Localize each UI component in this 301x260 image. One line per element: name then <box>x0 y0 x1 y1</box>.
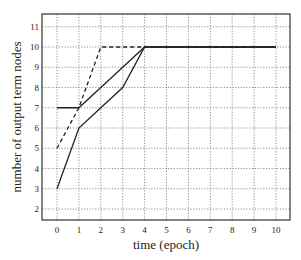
y-tick-label: 9 <box>35 62 40 72</box>
x-tick-labels: 012345678910 <box>55 225 281 235</box>
x-tick-label: 10 <box>272 225 282 235</box>
x-tick-label: 6 <box>186 225 191 235</box>
x-tick-label: 5 <box>164 225 169 235</box>
x-tick-label: 9 <box>252 225 257 235</box>
y-axis-label: number of output term nodes <box>9 42 25 193</box>
y-tick-label: 4 <box>35 164 40 174</box>
x-axis-label: time (epoch) <box>133 237 199 253</box>
x-tick-label: 4 <box>142 225 147 235</box>
x-tick-label: 2 <box>99 225 104 235</box>
grid-lines <box>42 14 290 220</box>
y-tick-label: 10 <box>30 42 40 52</box>
x-tick-label: 0 <box>55 225 60 235</box>
y-tick-label: 7 <box>35 103 40 113</box>
x-tick-label: 3 <box>120 225 125 235</box>
y-tick-label: 2 <box>35 204 40 214</box>
x-tick-label: 7 <box>208 225 213 235</box>
y-tick-label: 8 <box>35 83 40 93</box>
y-tick-label: 3 <box>35 184 40 194</box>
y-tick-label: 11 <box>30 22 39 32</box>
line-chart: 012345678910 234567891011 <box>0 0 301 260</box>
x-tick-label: 8 <box>230 225 235 235</box>
y-tick-label: 6 <box>35 123 40 133</box>
y-tick-labels: 234567891011 <box>30 22 40 214</box>
x-tick-label: 1 <box>77 225 82 235</box>
y-tick-label: 5 <box>35 143 40 153</box>
